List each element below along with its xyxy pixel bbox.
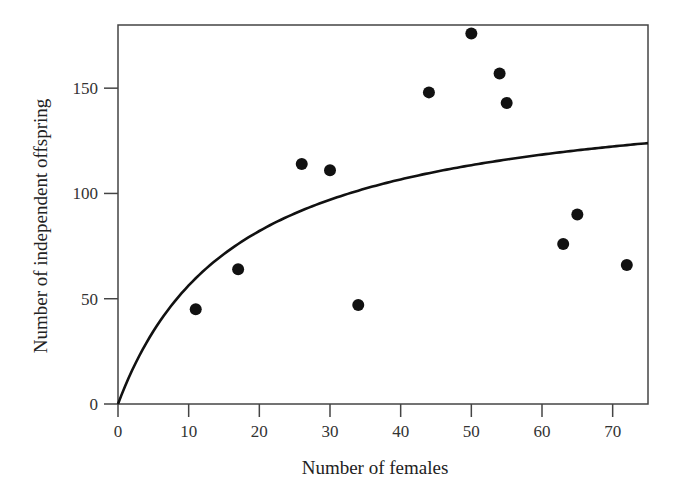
data-point — [423, 86, 435, 98]
x-tick-label: 50 — [463, 422, 480, 441]
plot-frame — [118, 25, 648, 404]
y-tick-label: 0 — [90, 395, 99, 414]
y-axis-title: Number of independent offspring — [30, 98, 51, 353]
x-tick-label: 40 — [392, 422, 409, 441]
data-point — [296, 158, 308, 170]
x-tick-label: 60 — [534, 422, 551, 441]
x-axis-title: Number of females — [302, 457, 449, 478]
data-point — [557, 238, 569, 250]
y-axis-ticks: 050100150 — [73, 79, 119, 414]
y-tick-label: 50 — [81, 290, 98, 309]
x-tick-label: 10 — [180, 422, 197, 441]
data-point — [190, 303, 202, 315]
fitted-curve — [118, 143, 648, 404]
data-points — [190, 27, 633, 315]
x-axis-ticks: 010203040506070 — [114, 404, 621, 441]
x-tick-label: 30 — [322, 422, 339, 441]
x-tick-label: 70 — [604, 422, 621, 441]
data-point — [621, 259, 633, 271]
data-point — [352, 299, 364, 311]
y-tick-label: 100 — [73, 184, 99, 203]
data-point — [494, 67, 506, 79]
scatter-chart: 010203040506070 050100150 Number of fema… — [0, 0, 679, 501]
data-point — [501, 97, 513, 109]
y-tick-label: 150 — [73, 79, 99, 98]
data-point — [232, 263, 244, 275]
data-point — [324, 164, 336, 176]
data-point — [465, 27, 477, 39]
x-tick-label: 20 — [251, 422, 268, 441]
data-point — [571, 209, 583, 221]
x-tick-label: 0 — [114, 422, 123, 441]
